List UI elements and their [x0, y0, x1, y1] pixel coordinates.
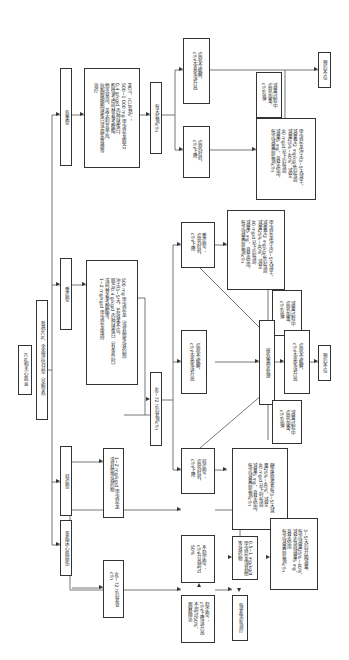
critical-monitor-node: 每天监测cTn: [150, 82, 162, 154]
arrow-icon: [280, 359, 284, 363]
mild-recurrence-text: 减量过程中 症状加重， cTn反弹: [279, 410, 296, 435]
unstable-taper-node: 3~5天后开始减量， 每次减量25%~40%， 减至每周减量5 mg， 直至停用…: [270, 518, 318, 590]
arrow-icon: [266, 555, 270, 559]
unstable-treatment-text: 0.5~1 mg/kg/d 甲泼尼龙或其他 等效药物: [237, 541, 254, 576]
arrow-icon: [56, 542, 60, 546]
unstable-treatment-node: 0.5~1 mg/kg/d 甲泼尼龙或其他 等效药物: [232, 536, 258, 580]
arrow-icon: [82, 282, 86, 286]
arrow-icon: [177, 359, 181, 363]
stable-node: 稳定型： cTn下降或升高 不超过50%， 观察随访: [181, 595, 215, 643]
classification-node: 暂停ICIs，全面评估分型（见附表）: [36, 300, 48, 420]
arrow-icon: [314, 67, 318, 71]
monitor-48-72h-node: 48~72 h后复测cTn: [150, 372, 162, 446]
severe-not-improved-text: 症状不缓解， cTn无变化或升高: [188, 343, 199, 381]
classification-label: 暂停ICIs，全面评估分型（见附表）: [39, 321, 45, 399]
critical-recurrence-node: 减量过程中 症状加重， cTn反弹: [256, 72, 282, 118]
arrow-icon: [80, 112, 84, 116]
resume-immunotherapy-node: 恢复免疫治疗: [232, 595, 248, 641]
arrow-icon: [146, 112, 150, 116]
arrow-icon: [56, 282, 60, 286]
root-node: ICIs相关心肌炎: [18, 345, 32, 395]
severe-eval-node: 重症型： 症状好转， cTn下降: [181, 222, 215, 268]
mild-eval-node: 轻症型： 症状好转， cTn下降: [181, 448, 215, 494]
arrow-icon: [99, 585, 103, 589]
critical-monitor-text: 每天监测cTn: [153, 104, 159, 132]
severe-treatment-text: 500 mg 甲泼尼龙（或其他等效药物） 冲击3~5天，若效果不佳， 联合0.4…: [98, 278, 126, 368]
arrow-icon: [56, 479, 60, 483]
arrow-icon: [197, 583, 201, 587]
resume-immunotherapy-text: 恢复免疫治疗: [237, 603, 243, 633]
severe-not-improved-node: 症状不缓解， cTn无变化或升高: [181, 330, 207, 394]
poor-prognosis-text: 预后不佳: [322, 353, 328, 373]
severe-label: 重症型: [63, 287, 69, 302]
stable-text: 稳定型： cTn下降或升高 不超过50%， 观察随访: [187, 602, 209, 635]
arrow-icon: [177, 242, 181, 246]
root-label: ICIs相关心肌炎: [22, 353, 28, 386]
arrow-icon: [56, 112, 60, 116]
critical-prognosis-text: 预后不佳: [322, 60, 328, 80]
arrow-icon: [146, 397, 150, 401]
upgrade-not-improved-text: 症状不缓解， cTn无变化或升高: [291, 343, 302, 381]
critical-label: 危重型: [63, 110, 69, 125]
critical-not-improved-node: 症状不缓解， cTn无变化或升高: [183, 38, 210, 104]
mild-treatment-text: 1~2 mg/kg/d 甲泼尼龙 或其他等效药物: [108, 457, 119, 509]
subclinical-type-node: 亚临床心肌损伤: [60, 520, 72, 576]
arrow-icon: [99, 459, 103, 463]
mild-recurrence-node: 减量过程中 症状加重， cTn反弹: [272, 400, 302, 444]
arrow-icon: [314, 359, 318, 363]
monitor-48-72h-text: 48~72 h后复测cTn: [153, 387, 159, 430]
arrow-icon: [223, 242, 227, 246]
arrow-icon: [255, 359, 259, 363]
severe-taper-node: 甲泼尼龙冲击3~5天减半， 减量至2 mg/kg/d后每周 减量25%~40%，…: [227, 210, 285, 290]
critical-taper-node: 甲泼尼龙冲击3~5天减半， 减量至2 mg/kg/d后每周 减量25%~40%，…: [256, 118, 316, 200]
unstable-node: 不稳定型： cTn升高超过 50%: [181, 535, 215, 583]
arrow-icon: [252, 147, 256, 151]
arrow-icon: [237, 588, 241, 592]
mild-taper-text: 糖皮质激素每3~5天减 量25%~40%，减至 40 mg/d以下时每周 减量5…: [246, 463, 274, 515]
upgrade-critical-text: 按危重型处理: [264, 348, 270, 378]
arrow-icon: [177, 507, 181, 511]
arrow-icon: [228, 587, 232, 591]
mild-label: 轻症型: [63, 474, 69, 489]
critical-type-node: 危重型: [60, 68, 72, 166]
critical-improved-node: 症状好转， cTn下降: [183, 126, 210, 178]
subclinical-label: 亚临床心肌损伤: [63, 531, 69, 566]
critical-treatment-text: MDT，ICU监护； 500~1 000 mg 甲泼尼龙联合 0.4 g/kg/…: [92, 83, 131, 153]
upgrade-not-improved-node: 症状不缓解， cTn无变化或升高: [284, 330, 310, 394]
arrow-icon: [223, 467, 227, 471]
critical-improved-text: 症状好转， cTn下降: [191, 140, 202, 165]
critical-not-improved-text: 症状不缓解， cTn无变化或升高: [191, 52, 202, 90]
subclinical-monitor-text: 48~72 h后复查 cTn: [108, 572, 119, 607]
critical-prognosis-node: 预后不佳: [318, 52, 331, 88]
mild-eval-text: 轻症型： 症状好转， cTn下降: [190, 459, 207, 484]
critical-treatment-node: MDT，ICU监护； 500~1 000 mg 甲泼尼龙联合 0.4 g/kg/…: [84, 68, 140, 168]
upgrade-critical-node: 按危重型处理: [259, 320, 275, 405]
arrow-icon: [228, 555, 232, 559]
critical-recurrence-text: 减量过程中 症状加重， cTn反弹: [261, 83, 278, 108]
severe-taper-text: 甲泼尼龙冲击3~5天减半， 减量至2 mg/kg/d后每周 减量25%~40%，…: [239, 220, 273, 280]
unstable-taper-text: 3~5天后开始减量， 每次减量25%~40%， 减至每周减量5 mg， 直至停用…: [280, 529, 308, 578]
arrow-icon: [177, 587, 181, 591]
mild-type-node: 轻症型: [60, 446, 72, 516]
arrow-icon: [179, 67, 183, 71]
severe-recurrence-text: 减量过程中 症状加重， cTn反弹: [279, 301, 296, 326]
severe-treatment-node: 500 mg 甲泼尼龙（或其他等效药物） 冲击3~5天，若效果不佳， 联合0.4…: [86, 260, 138, 385]
arrow-icon: [179, 147, 183, 151]
subclinical-monitor-node: 48~72 h后复查 cTn: [103, 560, 124, 618]
severe-type-node: 重症型: [60, 258, 72, 330]
poor-prognosis-node: 预后不佳: [318, 345, 331, 381]
mild-treatment-node: 1~2 mg/kg/d 甲泼尼龙 或其他等效药物: [103, 448, 124, 518]
arrow-icon: [177, 467, 181, 471]
severe-eval-text: 重症型： 症状好转， cTn下降: [190, 233, 207, 258]
unstable-text: 不稳定型： cTn升高超过 50%: [190, 545, 207, 573]
critical-taper-text: 甲泼尼龙冲击3~5天减半， 减量至2 mg/kg/d后每周 减量25%~40%，…: [269, 129, 303, 189]
